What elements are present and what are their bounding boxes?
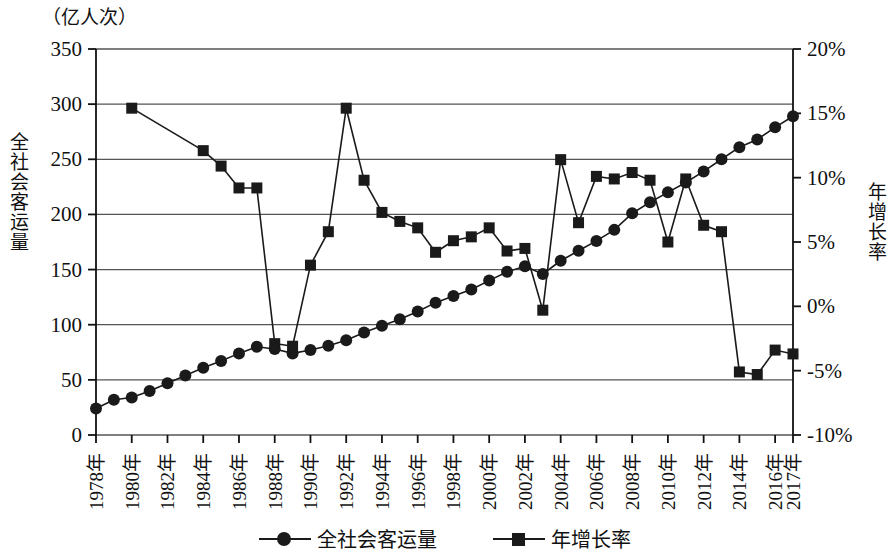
passenger-volume-point [340,334,352,346]
growth-rate-point [341,103,352,114]
passenger-volume-point [126,392,138,404]
passenger-volume-point [430,297,442,309]
y-axis-tick-label: 50 [61,368,82,392]
growth-rate-point [555,154,566,165]
legend-item-growth[interactable]: 年增长率 [493,524,631,553]
x-axis-tick-label: 1978年 [86,453,107,510]
circle-marker-icon [259,532,311,546]
y-axis-tick-label: 350 [51,37,83,61]
chart-figure: （亿人次） 全社会客运量 年增长率 050100150200250300350-… [0,0,889,557]
growth-rate-point [716,226,727,237]
growth-rate-point [645,175,656,186]
passenger-volume-point [608,224,620,236]
passenger-volume-point [197,362,209,374]
passenger-volume-point [733,141,745,153]
growth-rate-point [662,237,673,248]
passenger-volume-point [376,320,388,332]
passenger-volume-point [144,385,156,397]
growth-rate-point [519,243,530,254]
growth-rate-point [233,182,244,193]
passenger-volume-point [626,207,638,219]
growth-rate-point [216,161,227,172]
growth-rate-point [394,216,405,227]
passenger-volume-point [215,355,227,367]
x-axis-tick-label: 1988年 [265,453,286,510]
passenger-volume-point [698,165,710,177]
y-axis-left-title: 全社会客运量 [4,132,31,252]
x-axis-tick-label: 2002年 [515,453,536,510]
legend-label-passenger: 全社会客运量 [317,524,437,553]
growth-rate-point [537,305,548,316]
x-axis-tick-label: 1992年 [336,453,357,510]
y-axis-tick-label: 100 [51,313,83,337]
y2-axis-tick-label: 20% [807,37,846,61]
x-axis-tick-label: 1996年 [408,453,429,510]
growth-rate-line [132,108,793,374]
y2-axis-tick-label: -5% [807,359,842,383]
x-axis-tick-label: 2014年 [729,453,750,510]
x-axis-tick-label: 2010年 [658,453,679,510]
passenger-volume-point [358,326,370,338]
passenger-volume-point [90,403,102,415]
passenger-volume-point [251,341,263,353]
growth-rate-point [627,167,638,178]
growth-rate-point [788,348,799,359]
growth-rate-point [198,145,209,156]
y-axis-tick-label: 250 [51,147,83,171]
passenger-volume-point [161,377,173,389]
passenger-volume-point [555,255,567,267]
x-axis-tick-label: 1998年 [443,453,464,510]
x-axis-tick-label: 2000年 [479,453,500,510]
growth-rate-point [484,222,495,233]
x-axis-tick-label: 1980年 [122,453,143,510]
passenger-volume-point [179,369,191,381]
y2-axis-tick-label: -10% [807,423,853,447]
y-axis-tick-label: 300 [51,92,83,116]
growth-rate-point [573,217,584,228]
x-axis-tick-label: 1982年 [157,453,178,510]
growth-rate-point [770,345,781,356]
passenger-volume-point [394,313,406,325]
growth-rate-point [466,231,477,242]
growth-rate-point [448,235,459,246]
growth-rate-point [323,226,334,237]
growth-rate-point [359,175,370,186]
passenger-volume-point [590,235,602,247]
growth-rate-point [430,247,441,258]
y2-axis-tick-label: 5% [807,230,835,254]
passenger-volume-point [483,275,495,287]
legend-label-growth: 年增长率 [551,524,631,553]
passenger-volume-point [537,268,549,280]
passenger-volume-point [716,153,728,165]
x-axis-tick-label: 1986年 [229,453,250,510]
passenger-volume-point [519,260,531,272]
x-axis-tick-label: 1984年 [193,453,214,510]
square-marker-icon [493,532,545,546]
passenger-volume-point [680,176,692,188]
growth-rate-point [591,171,602,182]
unit-label: （亿人次） [42,2,137,29]
y-axis-tick-label: 0 [72,423,83,447]
passenger-volume-point [287,347,299,359]
passenger-volume-point [787,110,799,122]
passenger-volume-point [233,347,245,359]
passenger-volume-point [644,196,656,208]
growth-rate-point [752,369,763,380]
passenger-volume-point [447,290,459,302]
x-axis-tick-label: 2012年 [694,453,715,510]
passenger-volume-point [501,266,513,278]
passenger-volume-point [412,305,424,317]
growth-rate-point [126,103,137,114]
passenger-volume-point [662,186,674,198]
legend-item-passenger[interactable]: 全社会客运量 [259,524,437,553]
passenger-volume-point [322,340,334,352]
passenger-volume-point [304,344,316,356]
chart-legend: 全社会客运量 年增长率 [0,524,889,553]
passenger-volume-point [269,343,281,355]
x-axis-tick-label: 2006年 [586,453,607,510]
growth-rate-point [412,222,423,233]
passenger-volume-point [769,121,781,133]
passenger-volume-point [573,245,585,257]
x-axis-tick-label: 1990年 [300,453,321,510]
y2-axis-tick-label: 0% [807,294,835,318]
